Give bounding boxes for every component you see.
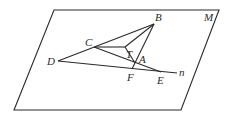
label-t: T: [126, 48, 133, 60]
label-line-n: n: [179, 66, 185, 78]
label-e: E: [156, 74, 164, 86]
plane-m: [14, 10, 219, 110]
geometry-diagram: M B C T A D F E n: [0, 0, 234, 120]
line-n: [58, 61, 177, 73]
label-b: B: [155, 11, 162, 23]
label-d: D: [46, 55, 55, 67]
label-plane-m: M: [203, 11, 214, 23]
label-f: F: [126, 71, 134, 83]
label-c: C: [85, 36, 93, 48]
segment-tb: [125, 24, 154, 47]
label-a: A: [138, 53, 146, 65]
